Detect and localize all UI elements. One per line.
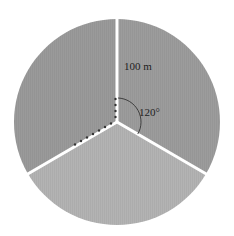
angle-label: 120° [139, 106, 160, 118]
radius-label: 100 m [124, 60, 152, 72]
sector-diagram: 100 m 120° [0, 0, 234, 236]
